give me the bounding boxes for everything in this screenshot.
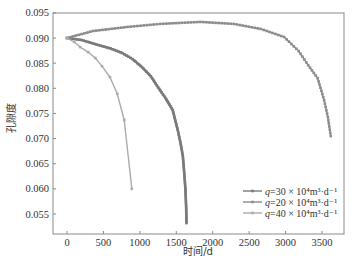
data-marker — [143, 24, 146, 27]
data-marker — [202, 21, 205, 24]
data-marker — [214, 22, 217, 25]
data-marker — [178, 138, 181, 141]
legend-marker-icon — [251, 190, 254, 193]
data-marker — [285, 38, 288, 41]
data-marker — [89, 30, 92, 33]
data-marker — [271, 32, 274, 35]
y-tick-label: 0.055 — [25, 209, 49, 220]
data-marker — [179, 140, 182, 143]
data-marker — [101, 65, 104, 68]
data-marker — [177, 131, 180, 134]
data-marker — [229, 22, 232, 25]
data-marker — [288, 40, 291, 43]
data-marker — [94, 57, 97, 60]
data-marker — [133, 25, 136, 28]
data-marker — [226, 22, 229, 25]
data-marker — [245, 25, 248, 28]
series-2 — [66, 37, 133, 190]
data-marker — [311, 69, 314, 72]
legend-marker-icon — [251, 201, 254, 204]
data-marker — [236, 23, 239, 26]
data-marker — [107, 28, 110, 31]
data-marker — [251, 26, 254, 29]
data-marker — [123, 119, 126, 122]
data-marker — [174, 22, 177, 25]
data-marker — [321, 93, 324, 96]
data-marker — [329, 135, 332, 138]
data-marker — [254, 27, 257, 30]
data-marker — [280, 35, 283, 38]
data-marker — [303, 58, 306, 61]
data-marker — [177, 22, 180, 25]
data-marker — [66, 37, 69, 40]
data-marker — [301, 55, 304, 58]
data-marker — [123, 26, 126, 29]
data-marker — [323, 99, 326, 102]
y-tick-label: 0.070 — [25, 133, 49, 144]
x-tick-label: 500 — [96, 237, 112, 248]
data-marker — [283, 36, 286, 39]
data-marker — [265, 30, 268, 33]
data-marker — [314, 74, 317, 77]
data-marker — [328, 122, 331, 125]
data-marker — [171, 22, 174, 25]
y-tick-label: 0.065 — [25, 158, 49, 169]
data-marker — [159, 23, 162, 26]
data-marker — [117, 27, 120, 30]
series-0 — [66, 37, 188, 225]
data-marker — [136, 25, 139, 28]
legend-label: q=20 × 10⁴m³·d⁻¹ — [265, 197, 337, 208]
data-marker — [73, 41, 76, 44]
data-marker — [162, 22, 165, 25]
y-axis: 0.0550.0600.0650.0700.0750.0800.0850.090… — [25, 7, 56, 219]
data-marker — [104, 28, 107, 31]
data-marker — [319, 86, 322, 89]
data-marker — [297, 50, 300, 53]
data-marker — [139, 24, 142, 27]
legend-label: q=30 × 10⁴m³·d⁻¹ — [265, 186, 337, 197]
data-marker — [83, 32, 86, 35]
data-marker — [324, 102, 327, 105]
data-marker — [98, 29, 101, 32]
data-marker — [181, 22, 184, 25]
data-marker — [307, 64, 310, 67]
x-tick-label: 1000 — [129, 237, 150, 248]
data-marker — [320, 90, 323, 93]
data-marker — [328, 125, 331, 128]
data-marker — [313, 72, 316, 75]
data-marker — [295, 47, 298, 50]
x-tick-label: 3500 — [312, 237, 333, 248]
data-marker — [111, 27, 114, 30]
data-marker — [165, 22, 168, 25]
y-axis-title: 孔隙度 — [5, 103, 17, 133]
x-tick-label: 2500 — [239, 237, 260, 248]
y-tick-label: 0.075 — [25, 108, 49, 119]
data-marker — [114, 27, 117, 30]
data-marker — [95, 29, 98, 32]
y-tick-label: 0.060 — [25, 183, 49, 194]
x-tick-label: 3000 — [275, 237, 296, 248]
data-marker — [126, 26, 129, 29]
data-marker — [196, 21, 199, 24]
data-marker — [305, 61, 308, 64]
data-marker — [260, 28, 263, 31]
data-marker — [146, 24, 149, 27]
data-marker — [316, 77, 319, 80]
data-marker — [177, 133, 180, 136]
data-marker — [318, 83, 321, 86]
data-marker — [329, 132, 332, 135]
porosity-time-chart: 0.0550.0600.0650.0700.0750.0800.0850.090… — [0, 0, 354, 274]
data-marker — [262, 29, 265, 32]
data-marker — [317, 80, 320, 83]
data-marker — [86, 31, 89, 34]
data-marker — [156, 23, 159, 26]
data-marker — [74, 34, 77, 37]
data-marker — [129, 25, 132, 28]
data-marker — [223, 22, 226, 25]
data-marker — [299, 53, 302, 56]
y-tick-label: 0.095 — [25, 7, 49, 18]
data-marker — [87, 51, 90, 54]
data-marker — [274, 33, 277, 36]
data-marker — [293, 45, 296, 48]
data-marker — [328, 128, 331, 131]
